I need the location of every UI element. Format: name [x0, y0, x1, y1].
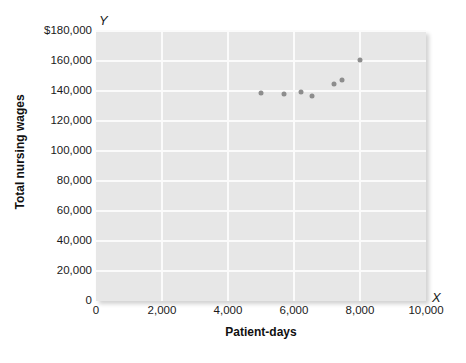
gridline-vertical: [227, 31, 229, 301]
x-axis-tick-label: 0: [93, 305, 99, 317]
data-point: [282, 92, 287, 97]
x-axis-tick-label: 8,000: [346, 305, 375, 317]
gridline-horizontal: [96, 150, 426, 152]
y-axis-tick-label: 120,000: [50, 115, 92, 127]
data-point: [331, 81, 336, 86]
data-point: [259, 90, 264, 95]
x-axis-tick-label: 4,000: [214, 305, 243, 317]
gridline-horizontal: [96, 60, 426, 62]
y-axis-tick-label: $180,000: [44, 25, 92, 37]
data-point: [298, 89, 303, 94]
y-axis-tick-label: 160,000: [50, 55, 92, 67]
x-axis-letter: X: [432, 291, 441, 304]
y-axis-letter: Y: [99, 14, 108, 27]
data-point: [339, 77, 344, 82]
gridline-vertical: [293, 31, 295, 301]
x-axis-tick-label: 10,000: [408, 305, 443, 317]
scatter-chart: 020,00040,00060,00080,000100,000120,0001…: [0, 0, 466, 363]
gridline-vertical: [161, 31, 163, 301]
gridline-horizontal: [96, 120, 426, 122]
y-axis-tick-label: 80,000: [57, 175, 92, 187]
gridline-vertical: [359, 31, 361, 301]
gridline-horizontal: [96, 270, 426, 272]
gridline-horizontal: [96, 180, 426, 182]
gridline-horizontal: [96, 210, 426, 212]
x-axis-tick-label: 6,000: [280, 305, 309, 317]
y-axis-tick-label: 0: [86, 295, 92, 307]
y-axis-title: Total nursing wages: [14, 52, 26, 252]
y-axis-tick-label: 20,000: [57, 265, 92, 277]
x-axis-tick-label: 2,000: [148, 305, 177, 317]
data-point: [358, 57, 363, 62]
y-axis-tick-label: 140,000: [50, 85, 92, 97]
plot-area: [96, 31, 426, 301]
data-point: [310, 94, 315, 99]
gridline-horizontal: [96, 240, 426, 242]
y-axis-tick-label: 60,000: [57, 205, 92, 217]
y-axis-tick-label: 40,000: [57, 235, 92, 247]
x-axis-title: Patient-days: [96, 326, 426, 338]
y-axis-tick-label: 100,000: [50, 145, 92, 157]
gridline-horizontal: [96, 30, 426, 32]
